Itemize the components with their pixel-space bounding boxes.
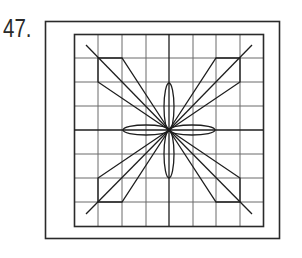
line-design-figure xyxy=(0,0,302,258)
